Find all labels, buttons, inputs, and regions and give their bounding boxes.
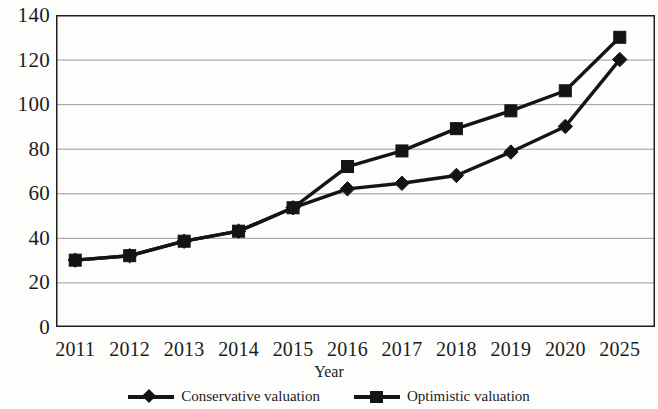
- data-point-square-marker-icon: [342, 161, 354, 173]
- data-point-square-marker-icon: [559, 85, 571, 97]
- data-point-square-marker-icon: [287, 202, 299, 214]
- plot-frame-border: [57, 16, 655, 327]
- x-axis-tick-label: 2025: [592, 339, 648, 359]
- legend-label: Conservative valuation: [181, 388, 320, 405]
- data-point-square-marker-icon: [396, 145, 408, 157]
- x-axis-tick-label: 2020: [537, 339, 593, 359]
- x-axis-tick-label: 2012: [102, 339, 158, 359]
- data-point-square-marker-icon: [69, 254, 81, 266]
- data-point-square-marker-icon: [614, 31, 626, 43]
- data-point-square-marker-icon: [124, 250, 136, 262]
- data-point-square-marker-icon: [233, 225, 245, 237]
- y-axis-tick-label: 120: [4, 50, 50, 71]
- x-axis-tick-labels: 2011201220132014201520162017201820192020…: [0, 331, 658, 361]
- line-chart: 020406080100120140 201120122013201420152…: [0, 0, 658, 409]
- data-point-diamond-marker-icon: [449, 168, 463, 182]
- square-marker-icon: [370, 391, 383, 403]
- chart-legend: Conservative valuationOptimistic valuati…: [0, 388, 658, 405]
- data-point-square-marker-icon: [505, 105, 517, 117]
- y-axis-tick-label: 100: [4, 94, 50, 115]
- x-axis-title: Year: [0, 363, 658, 381]
- diamond-marker-icon: [128, 390, 174, 404]
- x-axis-tick-label: 2011: [47, 339, 103, 359]
- x-axis-tick-label: 2017: [374, 339, 430, 359]
- data-point-square-marker-icon: [178, 235, 190, 247]
- y-axis-tick-label: 60: [4, 183, 50, 204]
- x-axis-tick-label: 2018: [428, 339, 484, 359]
- y-axis-tick-label: 20: [4, 272, 50, 293]
- series-line-1: [75, 60, 620, 261]
- y-axis-tick-label: 80: [4, 139, 50, 160]
- square-marker-icon: [354, 390, 400, 404]
- data-point-diamond-marker-icon: [504, 145, 518, 159]
- legend-entry: Optimistic valuation: [354, 388, 530, 405]
- diamond-marker-icon: [142, 388, 156, 402]
- legend-label: Optimistic valuation: [407, 388, 530, 405]
- plot-svg: [56, 15, 655, 327]
- x-axis-tick-label: 2019: [483, 339, 539, 359]
- plot-area: [56, 15, 655, 327]
- legend-entry: Conservative valuation: [128, 388, 320, 405]
- x-axis-tick-label: 2016: [320, 339, 376, 359]
- data-point-square-marker-icon: [450, 123, 462, 135]
- y-axis-tick-label: 140: [4, 5, 50, 26]
- x-axis-tick-label: 2013: [156, 339, 212, 359]
- y-axis-tick-label: 40: [4, 228, 50, 249]
- data-point-diamond-marker-icon: [395, 176, 409, 190]
- x-axis-tick-label: 2015: [265, 339, 321, 359]
- x-axis-tick-label: 2014: [211, 339, 267, 359]
